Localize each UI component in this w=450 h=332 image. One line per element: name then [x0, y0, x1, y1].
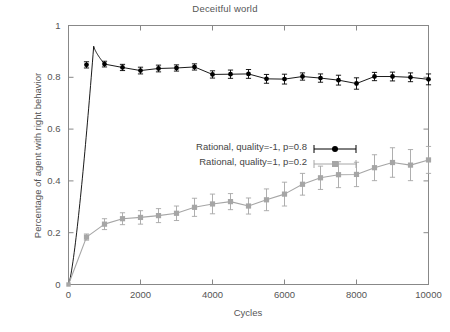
y-tick-label: 1: [21, 20, 61, 31]
legend-entry-series-1: Rational, quality=-1, p=0.8: [178, 139, 358, 154]
legend-entry-series-2: Rational, quality=1, p=0.2: [178, 154, 358, 169]
y-tick-label: 0.6: [21, 123, 61, 134]
x-tick-label: 8000: [327, 289, 387, 300]
x-axis-label: Cycles: [68, 307, 428, 318]
legend-label-series-1: Rational, quality=-1, p=0.8: [196, 141, 307, 152]
x-tick-label: 6000: [255, 289, 315, 300]
y-tick-label: 0.8: [21, 71, 61, 82]
chart-legend: Rational, quality=-1, p=0.8 Rational, qu…: [178, 139, 358, 169]
x-tick-label: 10000: [399, 289, 450, 300]
x-tick-label: 0: [39, 289, 99, 300]
legend-marker-series-2: [312, 156, 358, 168]
y-tick-label: 0.4: [21, 175, 61, 186]
legend-label-series-2: Rational, quality=1, p=0.2: [199, 156, 307, 167]
y-tick-label: 0.2: [21, 227, 61, 238]
legend-marker-series-1: [312, 141, 358, 153]
chart-container: Deceitful world Percentage of agent with…: [0, 0, 450, 332]
x-tick-label: 2000: [111, 289, 171, 300]
x-tick-label: 4000: [183, 289, 243, 300]
y-axis-label: Percentage of agent with right behavior: [32, 31, 43, 281]
